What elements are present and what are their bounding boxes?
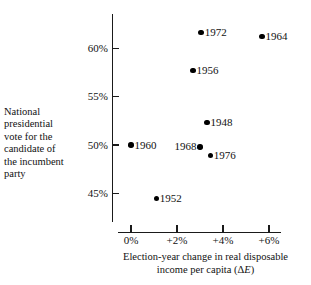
data-point-label: 1948 [210,117,232,128]
x-axis-tick-label: +4% [201,234,245,246]
data-point [197,144,202,149]
data-point [128,142,133,147]
data-point-label: 1956 [197,65,219,76]
y-axis-tick-label-wrap: 50% [68,140,108,151]
y-axis-tick-label: 55% [68,91,108,102]
x-axis-tick [130,225,131,232]
data-point [198,30,203,35]
x-axis-tick-label: +6% [247,234,291,246]
y-axis-tick-label: 60% [68,43,108,54]
data-point [204,120,209,125]
y-axis-tick [113,193,119,194]
data-point-label: 1972 [205,27,227,38]
data-point [154,196,159,201]
y-axis-tick [113,96,119,97]
data-point-label: 1964 [266,31,288,42]
x-axis-tick-label: +2% [155,234,199,246]
data-point [190,68,195,73]
x-axis-label-line1: Election-year change in real disposable [100,250,311,263]
data-point [259,34,264,39]
x-axis-tick [268,225,269,232]
y-axis-tick-label: 45% [68,188,108,199]
x-axis-tick [176,225,177,232]
y-axis-tick-label: 50% [68,140,108,151]
y-axis-label: National presidential vote for the candi… [4,106,70,180]
data-point-label: 1960 [135,140,157,151]
y-axis-tick-label-wrap: 60% [68,43,108,54]
x-axis-label-line2: income per capita (ΔE) [100,263,311,276]
y-axis-tick-label-wrap: 55% [68,91,108,102]
y-axis-tick [113,48,119,49]
x-axis-label-line2-suffix: ) [251,264,255,275]
x-axis-label-line2-prefix: income per capita (Δ [157,264,245,275]
data-point-label: 1952 [160,193,182,204]
x-axis-tick [222,225,223,232]
x-axis-tick-label: 0% [109,234,153,246]
data-point [208,153,213,158]
x-axis-label: Election-year change in real disposable … [100,250,311,276]
data-point-label: 1976 [214,150,236,161]
y-axis-tick-label-wrap: 45% [68,188,108,199]
y-axis-line [112,14,113,222]
y-axis-tick [113,144,119,145]
scatter-plot-figure: National presidential vote for the candi… [0,0,311,285]
data-point-label: 1968 [175,141,197,152]
